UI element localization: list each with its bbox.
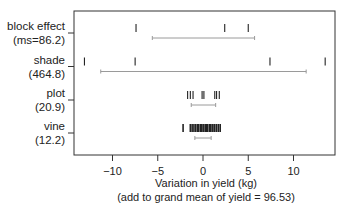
row-shade — [84, 58, 325, 74]
row-label: shade — [34, 54, 65, 66]
x-tick-label: 5 — [245, 165, 251, 177]
x-axis-subtitle: (add to grand mean of yield = 96.53) — [117, 191, 295, 203]
row-mean-square: (20.9) — [35, 101, 65, 113]
row-mean-square: (ms=86.2) — [13, 34, 65, 46]
row-vine — [183, 124, 220, 140]
x-axis: −10−50510 — [103, 155, 299, 177]
x-tick-label: −10 — [103, 165, 122, 177]
y-axis-ticks — [68, 33, 74, 133]
plot-frame — [74, 11, 335, 155]
row-mean-square: (12.2) — [35, 134, 65, 146]
row-label: plot — [46, 87, 65, 99]
strip-chart: block effect(ms=86.2)shade(464.8)plot(20… — [0, 0, 344, 215]
row-label: block effect — [7, 20, 66, 32]
x-tick-label: 0 — [200, 165, 206, 177]
x-tick-label: −5 — [151, 165, 164, 177]
effect-rows — [84, 24, 325, 140]
row-label: vine — [44, 120, 65, 132]
x-tick-label: 10 — [287, 165, 299, 177]
row-block-effect — [136, 24, 255, 40]
row-mean-square: (464.8) — [29, 68, 66, 80]
row-plot — [188, 91, 220, 107]
y-axis-labels: block effect(ms=86.2)shade(464.8)plot(20… — [7, 20, 66, 146]
x-axis-title: Variation in yield (kg) — [155, 177, 257, 189]
